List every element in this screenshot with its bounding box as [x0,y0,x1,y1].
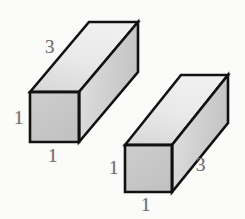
left-prism-front-face [30,92,79,142]
right-prism-depth-label: 3 [196,155,206,174]
figure-canvas: 3 1 1 1 1 3 [0,0,245,219]
right-prism-front-face [125,145,172,192]
left-prism-height-label: 1 [14,108,24,127]
left-prism-depth-label: 3 [45,37,55,56]
right-prism-width-label: 1 [141,195,151,214]
prisms-illustration [0,0,245,219]
right-rectangular-prism [125,75,228,192]
right-prism-height-label: 1 [109,158,119,177]
left-prism-width-label: 1 [48,146,58,165]
